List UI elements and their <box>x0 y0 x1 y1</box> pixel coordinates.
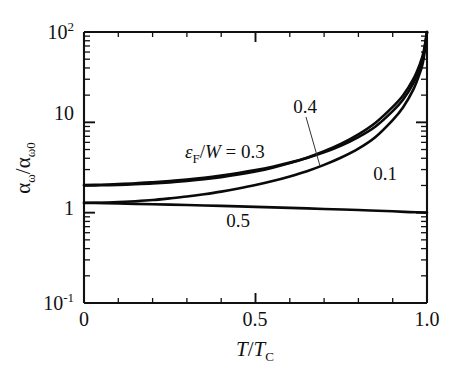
annotation-0.1: 0.1 <box>373 163 397 184</box>
y-tick-label-1: 1 <box>64 197 74 219</box>
y-tick-label-10: 10 <box>54 102 74 124</box>
x-tick-label-0.5: 0.5 <box>243 308 268 330</box>
annotation-0.5: 0.5 <box>226 210 250 231</box>
figure-background <box>0 0 475 373</box>
chart-svg: 102 10 1 10-1 0 0.5 1.0 T/TC αω/αω0 εF/W… <box>0 0 475 373</box>
x-tick-label-0: 0 <box>79 308 89 330</box>
x-tick-label-1.0: 1.0 <box>415 308 440 330</box>
figure-container: 102 10 1 10-1 0 0.5 1.0 T/TC αω/αω0 εF/W… <box>0 0 475 373</box>
annotation-0.4: 0.4 <box>293 96 317 117</box>
